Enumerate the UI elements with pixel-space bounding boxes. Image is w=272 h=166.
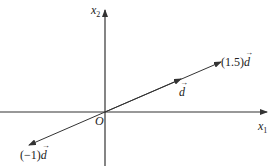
x-axis-label: x1 xyxy=(258,120,267,137)
vector-d-label: d xyxy=(179,86,185,98)
vector-neg-d xyxy=(29,112,105,145)
y-axis-label: x2 xyxy=(91,4,100,21)
vector-neg-d-label: (−1)d xyxy=(20,149,47,161)
vector-d xyxy=(105,79,181,112)
vector-1-5d-label: (1.5)d xyxy=(221,56,250,68)
origin-label: O xyxy=(95,115,104,127)
vector-diagram: x2 x1 O d (1.5)d (−1)d xyxy=(0,0,272,166)
